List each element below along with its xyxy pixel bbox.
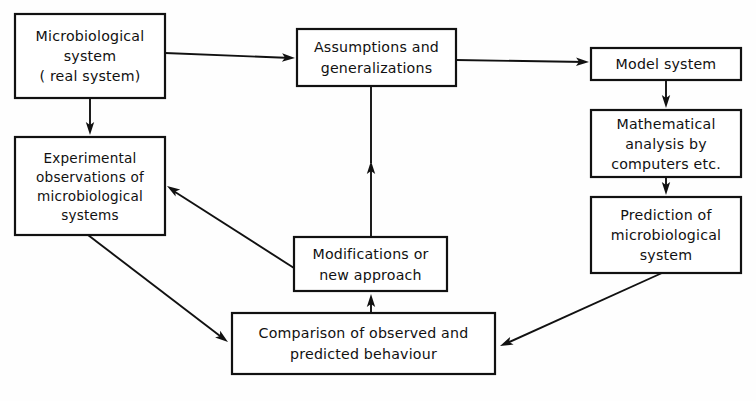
edge-microbiological-to-assumptions-line <box>165 53 291 58</box>
edge-modifications-to-experimental <box>165 182 294 268</box>
node-label-line: predicted behaviour <box>290 346 437 362</box>
node-label-line: system <box>640 247 693 263</box>
node-label-line: new approach <box>319 267 422 283</box>
edge-experimental-to-comparison <box>88 235 231 345</box>
node-label-line: microbiological <box>37 188 143 204</box>
node-label-line: Model system <box>616 56 717 72</box>
node-assumptions-generalizations[interactable]: Assumptions andgeneralizations <box>297 29 456 86</box>
edge-prediction-to-comparison <box>498 273 662 350</box>
node-model-system[interactable]: Model system <box>591 48 741 80</box>
node-label-line: systems <box>61 207 119 223</box>
node-label-line: analysis by <box>625 136 707 152</box>
edge-comparison-to-modifications <box>367 294 375 313</box>
node-box-comparison-observed-predicted[interactable] <box>232 313 495 374</box>
node-label-line: system <box>64 48 117 64</box>
node-label-line: microbiological <box>611 227 721 243</box>
edge-prediction-to-comparison-line <box>505 273 662 344</box>
node-label-line: Modifications or <box>312 246 428 262</box>
edge-mathematical-to-prediction <box>662 177 670 195</box>
node-label-line: Microbiological <box>36 28 145 44</box>
node-label-line: Prediction of <box>620 207 712 223</box>
node-prediction-microbiological-system[interactable]: Prediction ofmicrobiologicalsystem <box>591 197 741 273</box>
node-experimental-observations[interactable]: Experimentalobservations ofmicrobiologic… <box>15 137 165 235</box>
node-label-mathematical-analysis: Mathematicalanalysis bycomputers etc. <box>611 116 721 172</box>
edge-modifications-to-assumptions <box>367 161 375 237</box>
nodes-layer: Microbiologicalsystem( real system)Assum… <box>15 14 741 374</box>
node-label-line: Experimental <box>43 150 136 166</box>
edge-assumptions-to-model-line <box>456 60 585 62</box>
flowchart-canvas: Microbiologicalsystem( real system)Assum… <box>0 0 756 401</box>
node-mathematical-analysis[interactable]: Mathematicalanalysis bycomputers etc. <box>591 110 741 177</box>
node-label-line: observations of <box>36 169 145 185</box>
node-comparison-observed-predicted[interactable]: Comparison of observed andpredicted beha… <box>232 313 495 374</box>
node-label-line: Mathematical <box>616 116 715 132</box>
node-modifications-new-approach[interactable]: Modifications ornew approach <box>294 237 447 291</box>
node-label-line: Comparison of observed and <box>259 325 469 341</box>
node-label-line: computers etc. <box>611 156 721 172</box>
node-microbiological-system[interactable]: Microbiologicalsystem( real system) <box>15 14 165 98</box>
edges-layer <box>86 53 670 350</box>
node-label-line: ( real system) <box>39 68 140 84</box>
flowchart-diagram: Microbiologicalsystem( real system)Assum… <box>0 0 756 401</box>
edge-experimental-to-comparison-line <box>88 235 224 339</box>
edge-modifications-to-experimental-line <box>172 190 294 268</box>
edge-microbiological-to-assumptions <box>165 53 295 62</box>
node-label-line: generalizations <box>321 60 433 76</box>
edge-assumptions-to-model <box>456 58 589 67</box>
node-label-line: Assumptions and <box>314 39 439 55</box>
edge-microbiological-to-experimental <box>86 98 94 135</box>
node-box-assumptions-generalizations[interactable] <box>297 29 456 86</box>
edge-prediction-to-comparison-arrowhead <box>498 337 513 350</box>
edge-model-to-mathematical <box>662 80 670 108</box>
node-label-model-system: Model system <box>616 56 717 72</box>
